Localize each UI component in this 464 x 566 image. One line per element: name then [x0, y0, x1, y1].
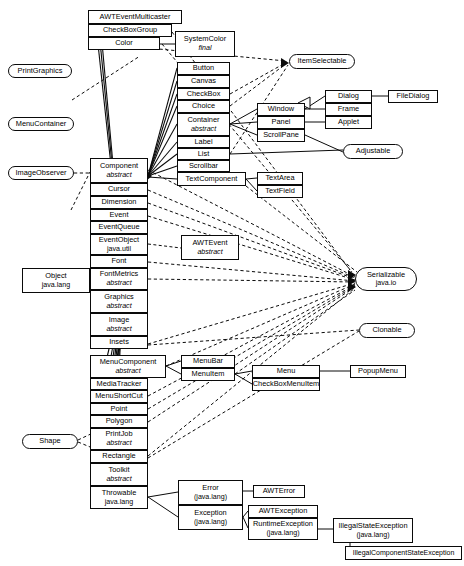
interface-itemselectable[interactable]: ItemSelectable: [289, 54, 355, 69]
class-name: Object: [45, 272, 66, 281]
interface-shape[interactable]: Shape: [22, 434, 78, 449]
class-box-menubar[interactable]: MenuBar: [181, 355, 235, 368]
class-name: Applet: [338, 118, 359, 127]
class-box-container[interactable]: Container abstract: [177, 113, 230, 136]
class-box-throwable[interactable]: Throwable java.lang: [90, 486, 148, 509]
class-box-eventobject[interactable]: EventObject java.util: [90, 234, 148, 255]
class-box-filedialog[interactable]: FileDialog: [388, 90, 438, 103]
class-box-polygon[interactable]: Polygon: [90, 415, 148, 428]
class-name: AWTEvent: [192, 239, 227, 248]
class-box-insets[interactable]: Insets: [90, 336, 148, 349]
interface-serializable[interactable]: Serializable java.io: [355, 267, 417, 291]
class-box-menu[interactable]: Menu: [252, 365, 320, 378]
class-name: Menu: [277, 367, 296, 376]
class-box-awteventmulticaster[interactable]: AWTEventMulticaster: [88, 10, 182, 24]
class-box-choice[interactable]: Choice: [177, 100, 230, 113]
class-name: FileDialog: [397, 92, 430, 101]
class-box-window[interactable]: Window: [257, 103, 305, 116]
class-name: Scrollbar: [189, 162, 218, 171]
class-name: CheckBox: [187, 90, 221, 99]
class-box-point[interactable]: Point: [90, 403, 148, 415]
interface-name: Serializable: [367, 271, 405, 280]
class-name: MenuShortCut: [95, 392, 143, 401]
class-name: Throwable: [102, 489, 137, 498]
class-box-menushortcut[interactable]: MenuShortCut: [90, 390, 148, 403]
class-box-textcomponent[interactable]: TextComponent: [177, 172, 246, 186]
class-box-toolkit[interactable]: Toolkit abstract: [90, 463, 148, 486]
class-box-awtevent[interactable]: AWTEvent abstract: [181, 235, 239, 260]
class-box-panel[interactable]: Panel: [257, 116, 305, 129]
class-box-dimension[interactable]: Dimension: [90, 196, 148, 209]
class-box-runtimeexception[interactable]: RuntimeException (java.lang): [248, 518, 318, 540]
class-name: IllegalComponentStateException: [353, 549, 455, 557]
class-modifier: abstract: [106, 475, 131, 483]
class-name: Frame: [338, 105, 359, 114]
class-box-list[interactable]: List: [177, 148, 230, 160]
class-box-dialog[interactable]: Dialog: [325, 90, 372, 103]
class-box-checkbox[interactable]: CheckBox: [177, 88, 230, 100]
class-modifier: abstract: [106, 325, 131, 333]
class-name: RuntimeException: [253, 520, 313, 529]
class-box-button[interactable]: Button: [177, 62, 230, 75]
class-box-fontmetrics[interactable]: FontMetrics abstract: [90, 268, 148, 290]
class-box-object[interactable]: Object java.lang: [22, 268, 90, 293]
class-box-label[interactable]: Label: [177, 136, 230, 148]
class-name: EventObject: [99, 236, 139, 245]
class-box-systemcolor[interactable]: SystemColor final: [175, 31, 235, 57]
class-box-exception[interactable]: Exception (java.lang): [178, 505, 243, 530]
class-package: java.lang: [105, 498, 133, 506]
class-name: TextComponent: [186, 175, 238, 184]
class-box-awterror[interactable]: AWTError: [253, 485, 305, 498]
class-box-menucomponent[interactable]: MenuComponent abstract: [90, 355, 166, 378]
class-box-awtexception[interactable]: AWTException: [248, 505, 318, 518]
class-box-cursor[interactable]: Cursor: [90, 183, 148, 196]
class-name: Event: [110, 211, 129, 220]
class-box-mediatracker[interactable]: MediaTracker: [90, 378, 148, 390]
class-box-rectangle[interactable]: Rectangle: [90, 450, 148, 463]
class-box-checkboxgroup[interactable]: CheckBoxGroup: [88, 24, 172, 37]
class-box-font[interactable]: Font: [90, 255, 148, 268]
class-box-scrollbar[interactable]: Scrollbar: [177, 160, 230, 172]
interface-adjustable[interactable]: Adjustable: [343, 144, 403, 159]
class-box-frame[interactable]: Frame: [325, 103, 372, 116]
class-box-applet[interactable]: Applet: [325, 116, 372, 129]
interface-name: ImageObserver: [16, 169, 67, 178]
class-box-popupmenu[interactable]: PopupMenu: [350, 365, 406, 378]
class-box-canvas[interactable]: Canvas: [177, 75, 230, 88]
interface-clonable[interactable]: Clonable: [359, 323, 415, 338]
class-name: Container: [187, 116, 219, 125]
interface-name: PrintGraphics: [18, 67, 63, 76]
class-name: Polygon: [106, 417, 133, 426]
class-box-graphics[interactable]: Graphics abstract: [90, 290, 148, 313]
class-box-event[interactable]: Event: [90, 209, 148, 221]
class-box-illegalcomponentstateexception[interactable]: IllegalComponentStateException: [345, 546, 462, 560]
class-name: MediaTracker: [97, 380, 142, 389]
class-name: EventQueue: [98, 223, 139, 232]
class-box-textfield[interactable]: TextField: [257, 185, 303, 198]
interface-name: ItemSelectable: [298, 57, 347, 66]
class-package: (java.lang): [194, 518, 227, 526]
class-modifier: abstract: [106, 302, 131, 310]
class-box-illegalstateexception[interactable]: IllegalStateException (java.lang): [333, 518, 413, 543]
class-box-menuitem[interactable]: MenuItem: [181, 368, 235, 381]
class-box-color[interactable]: Color: [88, 37, 160, 50]
class-box-eventqueue[interactable]: EventQueue: [90, 221, 148, 234]
class-box-error[interactable]: Error (java.lang): [178, 480, 243, 505]
class-name: Label: [194, 138, 212, 147]
class-name: ScrollPane: [263, 131, 299, 140]
interface-menucontainer[interactable]: MenuContainer: [8, 117, 74, 131]
class-box-scrollpane[interactable]: ScrollPane: [257, 129, 305, 142]
class-box-textarea[interactable]: TextArea: [257, 172, 303, 185]
class-name: Panel: [272, 118, 291, 127]
interface-imageobserver[interactable]: ImageObserver: [8, 166, 74, 180]
class-name: Dimension: [102, 198, 137, 207]
class-box-checkboxmenuitem[interactable]: CheckBoxMenuItem: [252, 378, 320, 391]
class-box-component[interactable]: Component abstract: [90, 158, 148, 183]
class-box-printjob[interactable]: PrintJob abstract: [90, 428, 148, 450]
class-box-image[interactable]: Image abstract: [90, 313, 148, 336]
class-modifier: abstract: [106, 171, 131, 179]
class-name: AWTError: [263, 487, 296, 496]
class-name: Toolkit: [109, 466, 130, 475]
class-package: java.lang: [42, 281, 70, 289]
interface-printgraphics[interactable]: PrintGraphics: [8, 64, 72, 78]
